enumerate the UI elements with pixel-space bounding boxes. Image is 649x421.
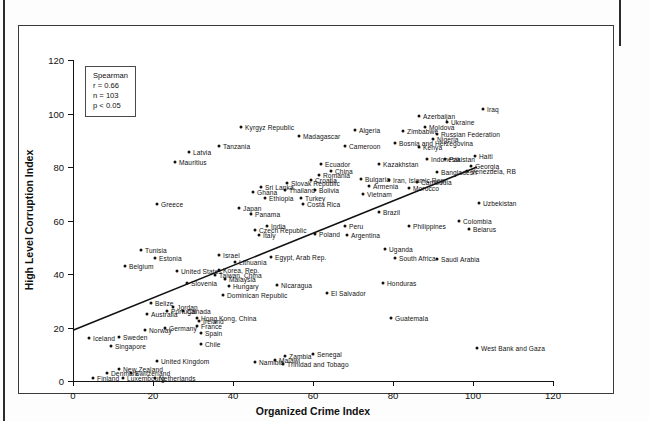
data-point (224, 278, 227, 281)
x-tick-label: 40 (228, 390, 239, 401)
stats-n: n = 103 (93, 91, 128, 101)
data-point (402, 129, 405, 132)
data-point (458, 219, 461, 222)
data-point (124, 264, 127, 267)
data-point (436, 171, 439, 174)
data-point (378, 163, 381, 166)
data-point (426, 157, 429, 160)
y-tick-label: 80 (53, 162, 64, 173)
data-point (474, 155, 477, 158)
data-point-label: Poland (319, 230, 340, 237)
data-point-label: Uzbekistan (483, 200, 517, 207)
data-point-label: Dominican Republic (227, 292, 287, 299)
data-point-label: Cameroon (349, 142, 381, 149)
data-point-label: Finland (97, 375, 119, 382)
data-point (264, 196, 267, 199)
data-point (228, 285, 231, 288)
data-point-label: Saudi Arabia (441, 256, 480, 263)
data-point-label: Egypt, Arab Rep. (275, 253, 326, 260)
y-tick-label: 20 (53, 322, 64, 333)
data-point-label: Hungary (233, 283, 259, 290)
data-point (144, 329, 147, 332)
x-tick-mark (73, 381, 74, 386)
x-tick-label: 80 (388, 390, 399, 401)
data-point-label: South Africa (399, 254, 436, 261)
data-point (444, 157, 447, 160)
y-tick-mark (68, 114, 73, 115)
stats-p: p < 0.05 (93, 101, 128, 111)
data-point (320, 163, 323, 166)
data-point-label: Kenya (423, 143, 442, 150)
data-point-label: Guatemala (395, 315, 428, 322)
data-point-label: Namibia (259, 359, 284, 366)
data-point (200, 331, 203, 334)
figure-frame: 020406080100120 020406080100120 IraqAzer… (18, 25, 614, 394)
y-tick-label: 100 (48, 108, 64, 119)
y-tick-mark (68, 328, 73, 329)
data-point (176, 270, 179, 273)
data-point (254, 361, 257, 364)
data-point (468, 227, 471, 230)
data-point (394, 141, 397, 144)
scatter-plot-area: 020406080100120 020406080100120 IraqAzer… (73, 60, 553, 381)
x-tick-label: 0 (70, 390, 75, 401)
data-point (270, 255, 273, 258)
data-point-label: Israel (223, 252, 240, 259)
data-point (150, 302, 153, 305)
data-point-label: Spain (205, 329, 222, 336)
page-edge-left (3, 0, 5, 421)
x-tick-mark (233, 381, 234, 386)
data-point (146, 313, 149, 316)
x-tick-mark (393, 381, 394, 386)
data-point-label: Pakistan (449, 155, 475, 162)
data-point-label: Slovenia (191, 280, 217, 287)
data-point-label: Netherlands (159, 375, 196, 382)
data-point (122, 377, 125, 380)
page-edge-right (619, 0, 621, 46)
data-point (174, 160, 177, 163)
data-point-label: Bolivia (319, 186, 339, 193)
data-point-label: Iceland (93, 335, 115, 342)
data-point (154, 377, 157, 380)
data-point (344, 144, 347, 147)
x-tick-mark (313, 381, 314, 386)
data-point (298, 135, 301, 138)
data-point (362, 192, 365, 195)
data-point-label: Tunisia (145, 246, 167, 253)
data-point (218, 144, 221, 147)
data-point (182, 310, 185, 313)
y-tick-label: 40 (53, 269, 64, 280)
data-point (250, 212, 253, 215)
data-point-label: Armenia (373, 182, 398, 189)
data-point-label: Germany (169, 324, 197, 331)
data-point (186, 282, 189, 285)
stats-method: Spearman (93, 71, 128, 81)
data-point (156, 359, 159, 362)
y-tick-mark (68, 60, 73, 61)
data-point (154, 256, 157, 259)
data-point-label: Estonia (159, 254, 182, 261)
data-point (300, 196, 303, 199)
data-point (408, 187, 411, 190)
data-point-label: Kazakhstan (383, 161, 418, 168)
data-point-label: Iraq (487, 106, 499, 113)
x-tick-mark (553, 381, 554, 386)
data-point (418, 145, 421, 148)
data-point (482, 108, 485, 111)
data-point-label: Zimbabwe (407, 127, 438, 134)
data-point (88, 337, 91, 340)
data-point-label: United Kingdom (161, 357, 209, 364)
x-tick-label: 20 (148, 390, 159, 401)
data-point-label: Australia (151, 311, 178, 318)
statistics-annotation: Spearman r = 0.66 n = 103 p < 0.05 (85, 66, 136, 117)
y-axis-title: High Level Corruption Index (23, 150, 35, 291)
data-point-label: Panama (255, 210, 280, 217)
data-point (368, 184, 371, 187)
data-point-label: Morocco (413, 185, 439, 192)
data-point (302, 203, 305, 206)
data-point (140, 248, 143, 251)
x-tick-label: 100 (465, 390, 481, 401)
data-point (284, 188, 287, 191)
data-point (418, 115, 421, 118)
data-point-label: Trinidad and Tobago (287, 360, 349, 367)
